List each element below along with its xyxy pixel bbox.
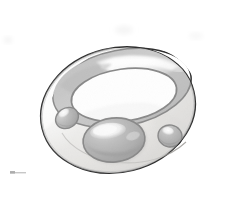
scan-smudge-left-icon [4, 37, 12, 43]
scan-smudge-right-icon [189, 33, 203, 39]
ring-illustration [0, 0, 232, 198]
scan-tick-mark-head-icon [10, 171, 15, 174]
scan-smudge-icon [115, 26, 133, 34]
image-canvas: Ring with three cabochon gemstones [0, 0, 232, 198]
